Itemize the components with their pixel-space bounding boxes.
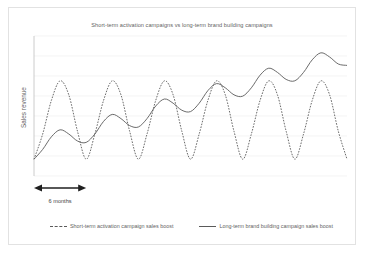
plot-area bbox=[9, 8, 355, 244]
legend-item-long-term: Long-term brand building campaign sales … bbox=[199, 223, 333, 229]
series-line-long-term bbox=[34, 53, 347, 159]
legend-item-short-term: Short-term activation campaign sales boo… bbox=[50, 223, 173, 229]
legend-marker-dashed-icon bbox=[50, 226, 67, 227]
legend-marker-solid-icon bbox=[199, 226, 216, 227]
series-line-short-term bbox=[34, 81, 347, 159]
legend-label-short-term: Short-term activation campaign sales boo… bbox=[70, 223, 173, 229]
chart-legend: Short-term activation campaign sales boo… bbox=[9, 223, 365, 229]
legend-label-long-term: Long-term brand building campaign sales … bbox=[219, 223, 333, 229]
period-arrow-icon bbox=[34, 184, 86, 191]
period-arrow-label: 6 months bbox=[34, 198, 86, 204]
chart-frame: Short-term activation campaigns vs long-… bbox=[8, 7, 356, 245]
gridlines bbox=[34, 36, 347, 176]
